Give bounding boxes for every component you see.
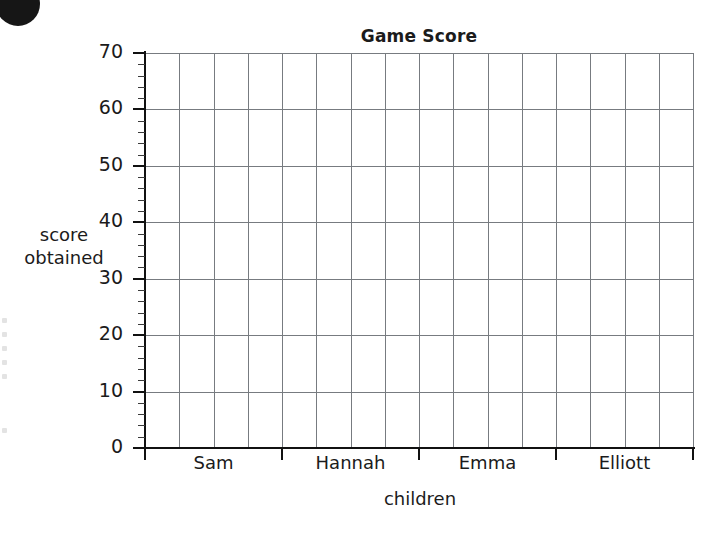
- y-axis-tick-label: 50: [71, 153, 123, 175]
- vertical-gridline: [556, 53, 557, 448]
- vertical-gridline: [179, 53, 180, 448]
- y-axis-minor-tick: [138, 403, 145, 404]
- vertical-gridline: [419, 53, 420, 448]
- x-axis-category-label-sam: Sam: [145, 452, 282, 473]
- y-axis-minor-tick: [138, 414, 145, 415]
- y-axis-minor-tick: [138, 211, 145, 212]
- y-axis-major-tick: [133, 108, 145, 110]
- x-axis-category-label-elliott: Elliott: [556, 452, 693, 473]
- y-axis-minor-tick: [138, 64, 145, 65]
- y-axis-title-line-2: obtained: [8, 247, 120, 270]
- y-axis-minor-tick: [138, 87, 145, 88]
- vertical-gridline: [488, 53, 489, 448]
- y-axis-tick-label: 60: [71, 96, 123, 118]
- vertical-gridline: [693, 53, 694, 448]
- y-axis-minor-tick: [138, 324, 145, 325]
- vertical-gridline: [590, 53, 591, 448]
- vertical-gridline: [316, 53, 317, 448]
- y-axis-title: score obtained: [8, 224, 120, 269]
- y-axis-minor-tick: [138, 121, 145, 122]
- vertical-gridline: [522, 53, 523, 448]
- y-axis-tick-label: 10: [71, 379, 123, 401]
- y-axis-minor-tick: [138, 256, 145, 257]
- y-axis-minor-tick: [138, 369, 145, 370]
- y-axis-minor-tick: [138, 380, 145, 381]
- y-axis-minor-tick: [138, 290, 145, 291]
- y-axis-minor-tick: [138, 346, 145, 347]
- y-axis-major-tick: [133, 221, 145, 223]
- y-axis-minor-tick: [138, 358, 145, 359]
- y-axis-major-tick: [133, 52, 145, 54]
- vertical-gridline: [625, 53, 626, 448]
- y-axis-minor-tick: [138, 245, 145, 246]
- x-axis-category-label-emma: Emma: [419, 452, 556, 473]
- plot-area: [145, 53, 693, 448]
- y-axis-minor-tick: [138, 155, 145, 156]
- y-axis-major-tick: [133, 278, 145, 280]
- x-axis-title: children: [270, 488, 570, 509]
- vertical-gridline: [385, 53, 386, 448]
- y-axis-minor-tick: [138, 200, 145, 201]
- y-axis-minor-tick: [138, 437, 145, 438]
- vertical-gridline: [453, 53, 454, 448]
- y-axis-minor-tick: [138, 132, 145, 133]
- y-axis-major-tick: [133, 165, 145, 167]
- y-axis-minor-tick: [138, 301, 145, 302]
- y-axis-minor-tick: [138, 98, 145, 99]
- y-axis-major-tick: [133, 391, 145, 393]
- y-axis-minor-tick: [138, 76, 145, 77]
- y-axis-minor-tick: [138, 234, 145, 235]
- chart-title: Game Score: [145, 26, 693, 46]
- y-axis-minor-tick: [138, 313, 145, 314]
- y-axis-minor-tick: [138, 177, 145, 178]
- vertical-gridline: [214, 53, 215, 448]
- vertical-gridline: [282, 53, 283, 448]
- y-axis-minor-tick: [138, 425, 145, 426]
- y-axis-minor-tick: [138, 267, 145, 268]
- y-axis-minor-tick: [138, 188, 145, 189]
- y-axis-title-line-1: score: [8, 224, 120, 247]
- x-axis-category-label-hannah: Hannah: [282, 452, 419, 473]
- y-axis-tick-label: 0: [71, 435, 123, 457]
- vertical-gridline: [351, 53, 352, 448]
- bar-chart-figure: Game Score 010203040506070 SamHannahEmma…: [0, 0, 722, 535]
- y-axis-tick-label: 20: [71, 322, 123, 344]
- y-axis-tick-label: 30: [71, 266, 123, 288]
- y-axis-tick-label: 70: [71, 40, 123, 62]
- y-axis-major-tick: [133, 334, 145, 336]
- y-axis-minor-tick: [138, 143, 145, 144]
- vertical-gridline: [659, 53, 660, 448]
- vertical-gridline: [248, 53, 249, 448]
